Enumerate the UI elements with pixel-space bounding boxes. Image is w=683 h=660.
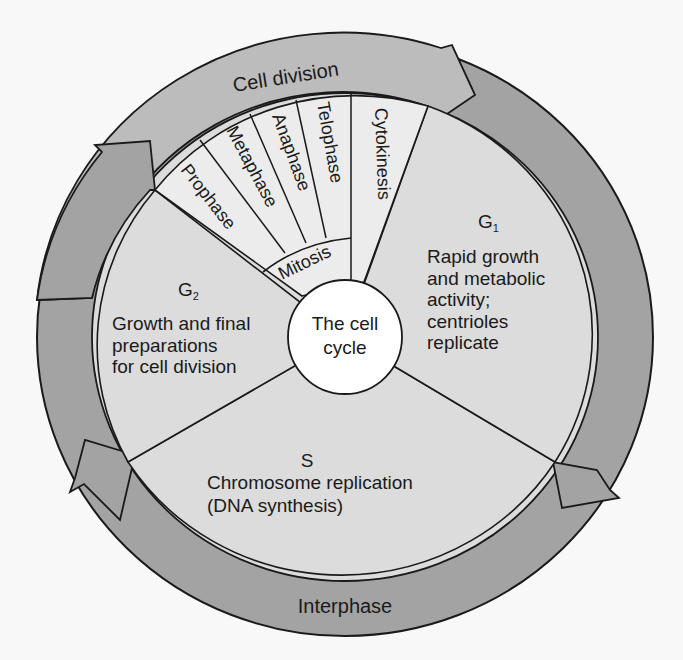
- g2-line-2: preparations: [112, 335, 218, 356]
- g1-line-4: centrioles: [427, 311, 508, 332]
- s-line-2: (DNA synthesis): [207, 495, 343, 516]
- g1-line-5: replicate: [427, 332, 499, 353]
- g1-name: G: [478, 211, 493, 232]
- center-label-line1: The cell: [312, 313, 379, 334]
- g1-line-1: Rapid growth: [427, 246, 539, 267]
- cell-cycle-diagram: Prophase Metaphase Anaphase Telophase Cy…: [0, 0, 683, 660]
- g1-line-2: and metabolic: [427, 268, 545, 289]
- g2-subscript: 2: [193, 290, 199, 302]
- g1-subscript: 1: [493, 222, 499, 234]
- g2-name: G: [178, 279, 193, 300]
- s-line-1: Chromosome replication: [207, 472, 413, 493]
- interphase-label: Interphase: [298, 595, 393, 617]
- s-title: S: [301, 450, 314, 471]
- g2-line-1: Growth and final: [112, 313, 250, 334]
- cytokinesis-label: Cytokinesis: [371, 107, 394, 200]
- center-label-line2: cycle: [323, 337, 366, 358]
- g2-line-3: for cell division: [112, 356, 237, 377]
- g1-line-3: activity;: [427, 289, 490, 310]
